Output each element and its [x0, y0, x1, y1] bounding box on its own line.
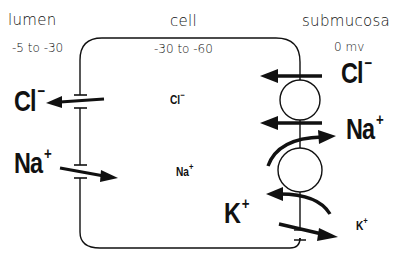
ion-charge: + [44, 144, 51, 163]
cotransporter-carrier-icon [280, 80, 320, 120]
submucosa-na-ion: Na+ [346, 112, 383, 146]
ion-symbol: Cl [341, 56, 363, 89]
cell-label: cell [170, 12, 197, 30]
basolateral-k-out-arrow [279, 224, 338, 241]
cell-cl-ion: Cl− [170, 93, 185, 107]
submucosa-cl-ion: Cl− [341, 56, 371, 90]
lumen-cl-ion: Cl− [14, 84, 44, 118]
cell-k-ion: K+ [224, 196, 249, 230]
ion-charge: − [180, 90, 184, 100]
ion-charge: + [242, 194, 249, 213]
ion-symbol: Na [346, 112, 374, 145]
submucosa-k-ion: K+ [356, 219, 368, 233]
ion-charge: + [189, 162, 193, 172]
ion-charge: + [363, 216, 367, 226]
cell-potential: -30 to -60 [154, 42, 213, 56]
ion-symbol: K [224, 196, 240, 229]
lumen-label: lumen [8, 11, 57, 29]
apical-cl-arrow [46, 96, 104, 108]
cell-membrane-outline [80, 38, 300, 248]
submucosa-potential: 0 mv [334, 40, 364, 54]
lumen-na-ion: Na+ [14, 146, 51, 180]
basolateral-cl-arrow [260, 69, 322, 83]
ion-symbol: K [356, 219, 363, 233]
ion-charge: − [37, 82, 44, 101]
ion-symbol: Na [14, 146, 42, 179]
apical-na-arrow [60, 168, 118, 182]
na-k-pump-icon [278, 148, 322, 192]
ion-symbol: Cl [170, 93, 180, 107]
ion-charge: − [364, 54, 371, 73]
cell-na-ion: Na+ [176, 165, 194, 179]
lumen-potential: -5 to -30 [12, 41, 63, 55]
ion-symbol: Na [176, 165, 189, 179]
ion-charge: + [376, 110, 383, 129]
ion-symbol: Cl [14, 84, 36, 117]
submucosa-label: submucosa [302, 12, 390, 30]
